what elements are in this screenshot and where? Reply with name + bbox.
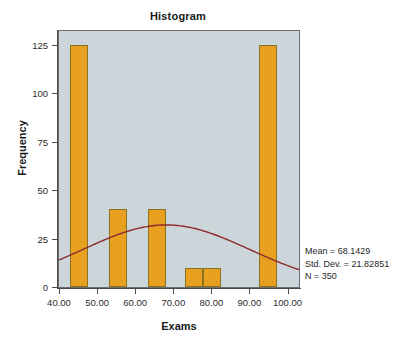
statistics-annotation: Mean = 68.1429 Std. Dev. = 21.82851 N = … [305, 245, 389, 283]
chart-title: Histogram [0, 10, 356, 22]
y-tick-mark [52, 287, 58, 288]
histogram-bar [148, 209, 166, 287]
y-tick-mark [52, 190, 58, 191]
x-tick-mark [97, 288, 98, 294]
histogram-bar [70, 45, 88, 287]
x-tick-mark [288, 288, 289, 294]
y-tick-label: 25 [10, 233, 48, 244]
histogram-bar [203, 268, 221, 287]
x-tick-mark [135, 288, 136, 294]
stat-n: N = 350 [305, 270, 389, 283]
x-tick-mark [211, 288, 212, 294]
y-tick-mark [52, 239, 58, 240]
x-axis-line [57, 288, 301, 289]
x-tick-mark [173, 288, 174, 294]
y-tick-mark [52, 45, 58, 46]
histogram-bar [259, 45, 277, 287]
y-tick-label: 125 [10, 39, 48, 50]
x-axis-title: Exams [58, 320, 300, 332]
x-tick-mark [59, 288, 60, 294]
histogram-bar [109, 209, 127, 287]
y-tick-mark [52, 142, 58, 143]
histogram-bar [185, 268, 203, 287]
y-tick-label: 0 [10, 282, 48, 293]
plot-area [58, 30, 300, 288]
x-tick-mark [249, 288, 250, 294]
histogram-figure: Histogram 0255075100125 40.0050.0060.007… [0, 0, 403, 346]
stat-std-dev: Std. Dev. = 21.82851 [305, 258, 389, 271]
y-axis-title: Frequency [16, 88, 28, 208]
x-tick-label: 100.00 [266, 297, 310, 308]
y-axis-line [57, 30, 58, 289]
y-tick-mark [52, 93, 58, 94]
stat-mean: Mean = 68.1429 [305, 245, 389, 258]
